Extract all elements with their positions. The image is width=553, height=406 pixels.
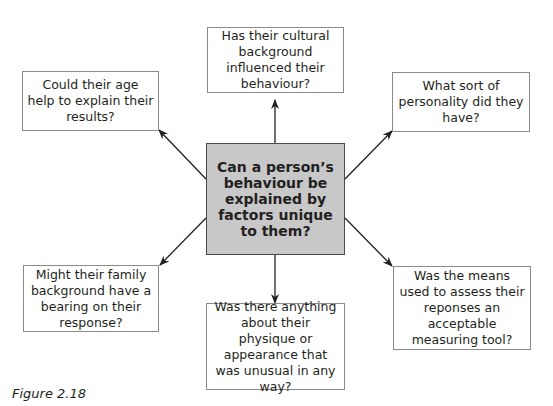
node-upper-right-label: What sort of personality did they have? — [397, 78, 525, 126]
node-top: Has their cultural background influenced… — [207, 27, 344, 93]
node-upper-left: Could their age help to explain their re… — [22, 71, 159, 131]
node-lower-left-label: Might their family background have a bea… — [28, 267, 154, 331]
node-upper-left-label: Could their age help to explain their re… — [27, 77, 154, 125]
center-question-label: Can a person’s behaviour be explained by… — [213, 159, 338, 239]
node-lower-left: Might their family background have a bea… — [23, 265, 159, 332]
arrow-to-lower-left — [160, 218, 206, 265]
figure-caption: Figure 2.18 — [12, 386, 86, 401]
node-bottom: Was there anything about their physique … — [206, 303, 345, 390]
node-upper-right: What sort of personality did they have? — [392, 72, 530, 132]
node-lower-right-label: Was the means used to assess their repon… — [398, 268, 526, 348]
arrow-to-lower-right — [345, 218, 392, 266]
arrow-to-upper-right — [345, 131, 392, 179]
node-bottom-label: Was there anything about their physique … — [211, 299, 340, 395]
node-lower-right: Was the means used to assess their repon… — [393, 266, 531, 350]
center-question: Can a person’s behaviour be explained by… — [206, 143, 345, 255]
arrow-to-upper-left — [159, 130, 206, 179]
node-top-label: Has their cultural background influenced… — [212, 28, 339, 92]
